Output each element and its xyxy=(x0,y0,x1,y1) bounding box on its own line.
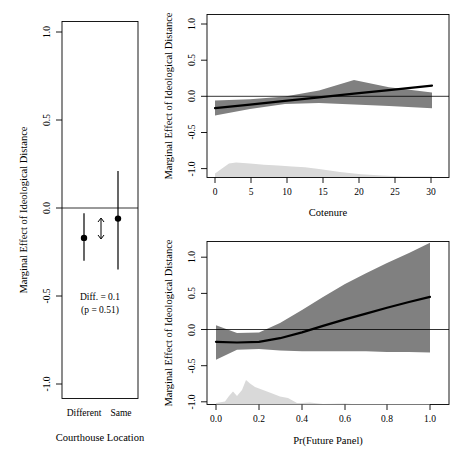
x-tick-label-0.6-future-panel: 0.6 xyxy=(339,414,351,424)
x-tick-label-15-cotenure: 15 xyxy=(318,187,328,197)
estimate-different xyxy=(81,213,87,260)
difference-annotation-pvalue: (p = 0.51) xyxy=(81,305,119,316)
x-axis-future-panel: 0.0 0.2 0.4 0.6 0.8 1.0 xyxy=(210,405,436,425)
y-axis-cotenure: 1.0 0.5 0.0 -0.5 -1.0 xyxy=(187,18,207,177)
y-tick-label--1.0: -1.0 xyxy=(42,376,52,391)
x-tick-label-20-cotenure: 20 xyxy=(354,187,364,197)
x-tick-label-30-cotenure: 30 xyxy=(426,187,436,197)
y-tick-label--1.0-cotenure: -1.0 xyxy=(187,161,197,176)
density-rug-future-panel xyxy=(216,380,430,405)
y-tick-label-0.5-cotenure: 0.5 xyxy=(187,54,197,66)
multi-panel-figure: 1.0 0.5 0.0 -0.5 -1.0 Marginal Effect of… xyxy=(0,0,459,463)
x-tick-label-10-cotenure: 10 xyxy=(282,187,292,197)
estimate-same xyxy=(115,171,121,270)
point-estimate-different xyxy=(81,235,87,241)
y-tick-label-0.0-cotenure: 0.0 xyxy=(187,90,197,102)
y-axis-title-cotenure: Marginal Effect of Ideological Distance xyxy=(163,12,174,179)
y-axis-title-left: Marginal Effect of Ideological Distance xyxy=(18,126,29,293)
y-axis-title-future-panel: Marginal Effect of Ideological Distance xyxy=(163,239,174,406)
y-tick-label-1.0-future-panel: 1.0 xyxy=(187,251,197,263)
x-tick-label-5-cotenure: 5 xyxy=(249,187,254,197)
difference-annotation-value: Diff. = 0.1 xyxy=(80,292,120,302)
y-tick-label--0.5-future-panel: -0.5 xyxy=(187,358,197,373)
x-tick-label-same: Same xyxy=(110,408,131,418)
x-tick-label-0.2-future-panel: 0.2 xyxy=(253,414,265,424)
y-tick-label-0.5-future-panel: 0.5 xyxy=(187,287,197,299)
x-axis-title-left: Courthouse Location xyxy=(56,432,145,443)
x-tick-label-25-cotenure: 25 xyxy=(390,187,400,197)
x-axis-title-cotenure: Cotenure xyxy=(309,207,348,218)
y-tick-label-1.0: 1.0 xyxy=(42,26,52,38)
x-tick-label-1.0-future-panel: 1.0 xyxy=(424,414,436,424)
panel-courthouse-location: 1.0 0.5 0.0 -0.5 -1.0 Marginal Effect of… xyxy=(18,22,145,444)
y-tick-label--1.0-future-panel: -1.0 xyxy=(187,394,197,409)
x-tick-label-different: Different xyxy=(67,408,102,418)
x-tick-label-0.0-future-panel: 0.0 xyxy=(210,414,222,424)
density-rug-cotenure xyxy=(215,163,432,177)
panel-future-panel: 1.0 0.5 0.0 -0.5 -1.0 Marginal Effect of… xyxy=(163,239,449,447)
plot-frame-left xyxy=(62,22,138,399)
y-tick-label-0.0: 0.0 xyxy=(42,202,52,214)
difference-arrow xyxy=(98,218,104,239)
y-tick-label--0.5: -0.5 xyxy=(42,288,52,303)
y-tick-label-0.0-future-panel: 0.0 xyxy=(187,324,197,336)
x-axis-cotenure: 0 5 10 15 20 25 30 xyxy=(213,178,436,198)
x-axis-title-future-panel: Pr(Future Panel) xyxy=(293,435,363,447)
point-estimate-same xyxy=(115,215,121,221)
y-axis-left: 1.0 0.5 0.0 -0.5 -1.0 xyxy=(42,26,62,392)
y-tick-label-1.0-cotenure: 1.0 xyxy=(187,18,197,30)
x-tick-label-0.8-future-panel: 0.8 xyxy=(381,414,393,424)
y-tick-label--0.5-cotenure: -0.5 xyxy=(187,124,197,139)
x-tick-label-0.4-future-panel: 0.4 xyxy=(296,414,308,424)
panel-cotenure: 1.0 0.5 0.0 -0.5 -1.0 Marginal Effect of… xyxy=(163,12,449,218)
y-axis-future-panel: 1.0 0.5 0.0 -0.5 -1.0 xyxy=(187,251,207,410)
figure-panel-group: 1.0 0.5 0.0 -0.5 -1.0 Marginal Effect of… xyxy=(0,0,459,463)
x-tick-label-0-cotenure: 0 xyxy=(213,187,218,197)
y-tick-label-0.5: 0.5 xyxy=(42,114,52,126)
